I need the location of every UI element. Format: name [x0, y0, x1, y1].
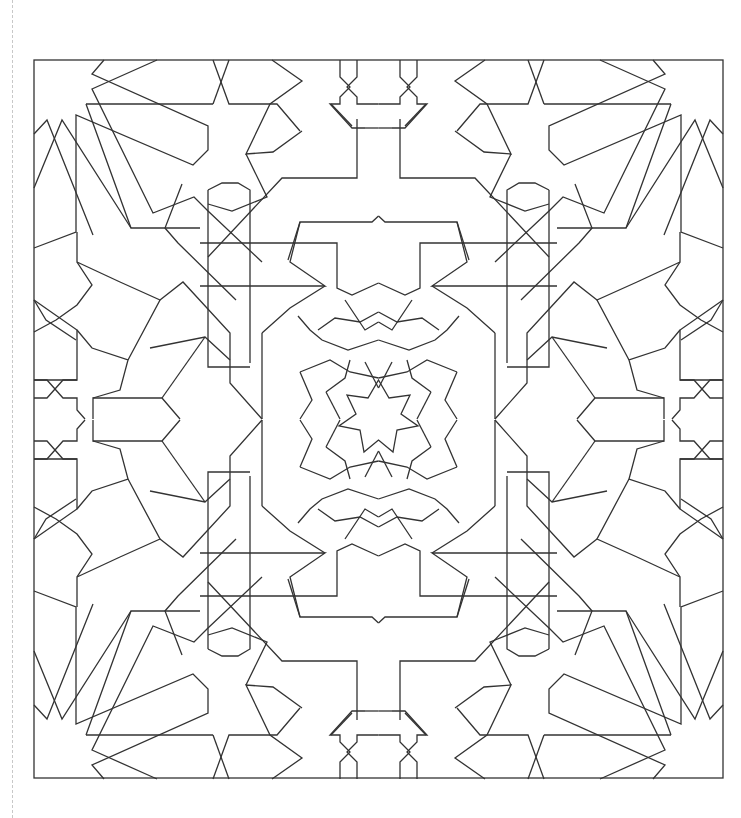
star-pattern-figure: [0, 0, 741, 818]
center-star: [339, 380, 418, 452]
quadrant-bottom-right: [379, 420, 724, 779]
quadrant-top-right: [379, 60, 724, 419]
quadrant-top-left: [34, 60, 379, 419]
outer-border: [34, 60, 723, 778]
quadrant-bottom-left: [34, 420, 379, 779]
